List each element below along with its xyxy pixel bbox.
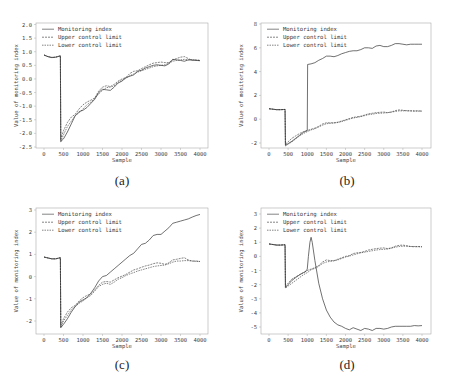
chart-c: 050010001500200025003000350040003210-1-2… [13,207,208,350]
series-lower-control-limit [269,244,422,288]
x-tick-label: 1500 [320,151,333,157]
x-tick-label: 3500 [174,151,187,157]
legend-entry: Upper control limit [58,34,122,41]
x-tick-label: 2500 [135,337,148,343]
y-tick-label: -2 [250,140,257,146]
y-tick-label: 0 [254,116,257,122]
x-tick-label: 1000 [76,337,89,343]
x-tick-label: 500 [283,151,293,157]
legend-entry: Monitoring index [58,211,113,218]
y-tick-label: -2 [25,318,32,324]
y-tick-label: -0.5 [19,90,32,96]
legend-entry: Lower control limit [283,42,347,48]
chart-b: 0500100015002000250030003500400086420-2S… [238,21,431,164]
y-tick-label: 1.0 [22,49,32,55]
series-upper-control-limit [44,55,200,139]
y-tick-label: 3 [254,211,257,217]
caption-a: (a) [115,173,129,189]
caption-d: (d) [339,357,354,373]
chart-a: 050010001500200025003000350040002.01.51.… [13,22,208,165]
x-tick-label: 4000 [193,337,206,343]
legend-entry: Lower control limit [58,227,122,233]
x-axis-label: Sample [336,343,356,350]
y-axis-label: Value of monitoring index [238,229,245,312]
legend-entry: Lower control limit [283,227,347,233]
y-tick-label: 8 [254,21,257,27]
x-tick-label: 500 [283,337,293,343]
legend: Monitoring indexUpper control limitLower… [267,26,347,48]
y-tick-label: 4 [254,69,258,75]
y-tick-label: 1 [254,239,257,245]
legend-entry: Upper control limit [283,34,347,41]
series-lower-control-limit [269,109,422,146]
y-tick-label: -4 [250,310,257,316]
x-tick-label: 0 [267,151,270,157]
x-tick-label: 1000 [76,151,89,157]
y-tick-label: -2.0 [19,130,32,136]
x-tick-label: 500 [59,337,69,343]
y-tick-label: 3 [29,207,32,213]
figure-grid: 050010001500200025003000350040002.01.51.… [0,0,449,385]
y-tick-label: 2 [254,92,257,98]
x-tick-label: 4000 [193,151,206,157]
x-tick-label: 2500 [135,151,148,157]
x-tick-label: 3500 [174,337,187,343]
y-axis-label: Value of monitoring index [13,43,20,126]
x-tick-label: 4000 [415,151,428,157]
legend-entry: Monitoring index [58,26,113,33]
legend-entry: Monitoring index [283,211,338,218]
y-tick-label: -5 [250,324,257,330]
y-tick-label: 1 [29,251,32,257]
y-axis-label: Value of monitoring index [238,43,245,126]
y-tick-label: 0.5 [22,62,32,68]
x-tick-label: 3500 [396,337,409,343]
caption-c: (c) [115,357,129,373]
y-tick-label: -1.0 [19,103,32,109]
x-tick-label: 1500 [320,337,333,343]
y-tick-label: -2.5 [19,144,32,150]
y-tick-label: -1 [25,296,32,302]
x-tick-label: 3000 [154,337,167,343]
series-lower-control-limit [44,257,200,328]
legend: Monitoring indexUpper control limitLower… [42,26,122,48]
x-tick-label: 0 [267,337,270,343]
x-tick-label: 1500 [96,151,109,157]
y-tick-label: 0 [29,274,32,280]
x-tick-label: 0 [42,151,45,157]
y-tick-label: 2 [29,229,32,235]
y-tick-label: 2 [254,225,257,231]
x-tick-label: 500 [59,151,69,157]
x-tick-label: 1000 [301,151,314,157]
y-tick-label: 2.0 [22,22,32,28]
y-tick-label: 0.0 [22,76,32,82]
legend: Monitoring indexUpper control limitLower… [267,211,347,233]
y-tick-label: 0 [254,253,257,259]
series-upper-control-limit [269,109,422,144]
x-axis-label: Sample [112,157,132,164]
y-tick-label: -1.5 [19,117,32,123]
legend: Monitoring indexUpper control limitLower… [42,211,122,233]
y-tick-label: 6 [254,45,257,51]
y-tick-label: -3 [250,296,257,302]
legend-entry: Upper control limit [58,219,122,226]
x-axis-label: Sample [112,343,132,350]
series-monitoring-index [44,55,200,142]
legend-entry: Upper control limit [283,219,347,226]
caption-b: (b) [339,173,354,189]
x-tick-label: 4000 [415,337,428,343]
series-lower-control-limit [44,55,200,142]
series-upper-control-limit [269,244,422,286]
y-tick-label: 1.5 [22,35,32,41]
series-monitoring-index [269,44,422,146]
y-axis-label: Value of monitoring index [13,229,20,312]
x-tick-label: 3000 [154,151,167,157]
x-tick-label: 2500 [358,337,371,343]
x-tick-label: 2500 [358,151,371,157]
x-tick-label: 3500 [396,151,409,157]
y-tick-label: -2 [250,282,257,288]
series-monitoring-index [269,237,422,330]
legend-entry: Lower control limit [58,42,122,48]
x-tick-label: 3000 [377,151,390,157]
x-tick-label: 1500 [96,337,109,343]
chart-d: 050010001500200025003000350040003210-1-2… [238,208,431,350]
